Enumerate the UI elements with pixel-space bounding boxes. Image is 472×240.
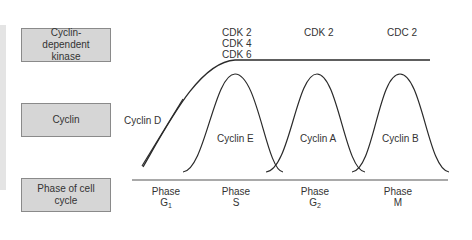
cyclin-e-curve <box>183 74 283 172</box>
cyclin-b-curve <box>352 74 449 172</box>
phase-name: G1 <box>151 197 181 211</box>
phase-m: Phase M <box>383 186 413 208</box>
cyclin-e-label: Cyclin E <box>217 133 254 144</box>
kinase-cdk6: CDK 6 <box>222 49 251 60</box>
phase-word: Phase <box>221 186 251 197</box>
cyclin-a-curve <box>266 74 365 172</box>
phase-word: Phase <box>151 186 181 197</box>
phase-name: M <box>383 197 413 208</box>
phase-word: Phase <box>300 186 330 197</box>
kinase-cdc2: CDC 2 <box>387 27 417 38</box>
kinase-label-m: CDC 2 <box>387 27 417 38</box>
phase-name: G2 <box>300 197 330 211</box>
kinase-cdk2-b: CDK 2 <box>304 27 333 38</box>
phase-name: S <box>221 197 251 208</box>
kinase-label-g2: CDK 2 <box>304 27 333 38</box>
kinase-cdk4: CDK 4 <box>222 38 251 49</box>
cyclin-a-label: Cyclin A <box>300 133 336 144</box>
cyclin-d-label: Cyclin D <box>124 115 161 126</box>
cyclin-d-line <box>142 99 183 166</box>
phase-g2: Phase G2 <box>300 186 330 211</box>
kinase-label-g1s: CDK 2 CDK 4 CDK 6 <box>222 27 251 60</box>
phase-g1: Phase G1 <box>151 186 181 211</box>
phase-word: Phase <box>383 186 413 197</box>
kinase-cdk2: CDK 2 <box>222 27 251 38</box>
phase-s: Phase S <box>221 186 251 208</box>
cdk-curve <box>143 60 430 167</box>
cyclin-b-label: Cyclin B <box>382 133 419 144</box>
